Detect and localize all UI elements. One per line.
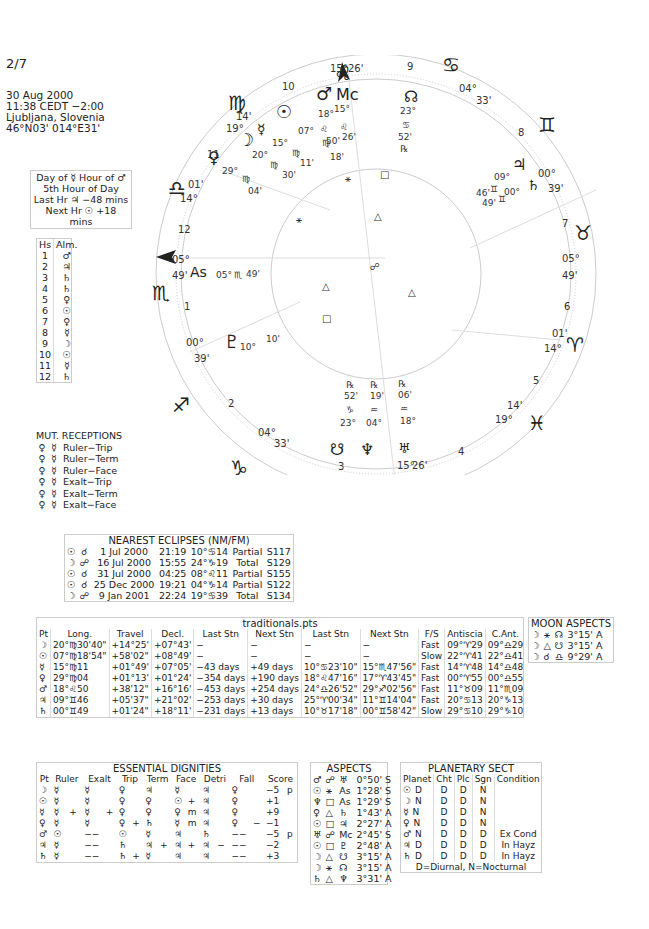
svg-text:♀: ♀ xyxy=(208,148,220,167)
dignity-row-cell xyxy=(67,840,82,851)
dignity-row-cell xyxy=(104,796,117,807)
dig-h-ruler: Ruler xyxy=(52,774,83,785)
svg-text:01': 01' xyxy=(552,328,567,339)
eclipse-row-cell: 16 Jul 2000 xyxy=(91,557,156,568)
planet-b: ☿ xyxy=(48,499,60,511)
traditionals-row-cell: ♂ xyxy=(37,684,50,695)
eclipse-row-cell: Partial xyxy=(230,579,264,590)
aspect-row: ♂☍♅0°50' S xyxy=(311,774,394,785)
traditionals-row-cell: +01°49' xyxy=(109,662,151,673)
almuten-planet: ♀ xyxy=(54,316,80,327)
dignity-row-cell xyxy=(215,829,229,840)
moon-aspect-row-cell: ☽ xyxy=(529,640,542,651)
aspect-row-cell: ♄ xyxy=(311,873,324,884)
sect-cell xyxy=(494,807,541,818)
svg-text:23°: 23° xyxy=(400,106,416,116)
svg-text:♏: ♏ xyxy=(152,281,170,305)
dignity-row-cell: −5 xyxy=(264,785,285,796)
traditionals-header: Travel xyxy=(109,629,151,640)
almuten-row: 5♀ xyxy=(37,294,80,305)
traditionals-row: ♄00°♊49+01'24"+18°11'−231 days+13 days10… xyxy=(37,706,525,717)
eclipse-row-cell: 08°♌11 xyxy=(188,568,230,579)
reception-row: ♀☿Ruler−Trip xyxy=(36,442,122,454)
dignity-row-cell xyxy=(251,807,264,818)
dignity-row-cell: ♀ xyxy=(117,807,131,818)
dignity-row-cell: ♄ xyxy=(117,840,131,851)
dignity-row-cell: ☿ xyxy=(52,796,68,807)
planet-sect: N xyxy=(413,807,420,817)
header-house: Hs xyxy=(37,239,54,250)
svg-text:♌: ♌ xyxy=(320,124,328,134)
aspect-row-cell: 2°45' S xyxy=(355,829,394,840)
dig-h-exalt: Exalt xyxy=(82,774,116,785)
moon-aspect-row-cell: ♎ xyxy=(553,651,566,662)
almuten-planet: ♄ xyxy=(54,283,80,294)
svg-text:46': 46' xyxy=(476,188,490,198)
traditionals-row-cell: +30 days xyxy=(248,695,302,706)
planet-glyph: ♀ xyxy=(403,818,410,828)
svg-text:☋: ☋ xyxy=(330,440,344,459)
aspect-row: ♄△♆3°31' A xyxy=(311,873,394,884)
aspect-row: ♅☍Mc2°45' S xyxy=(311,829,394,840)
svg-text:☉: ☉ xyxy=(276,101,292,122)
sect-cell: D xyxy=(434,829,455,840)
svg-text:♊: ♊ xyxy=(538,113,556,137)
aspect-row-cell: △ xyxy=(324,851,338,862)
sect-cell: N xyxy=(472,785,494,796)
svg-text:△: △ xyxy=(374,211,382,222)
almuten-planet: ☽ xyxy=(54,338,80,349)
dignity-row-cell: ♃ xyxy=(200,851,215,862)
reception-type: Exalt−Trip xyxy=(63,476,112,487)
aspect-row: ☉□♇2°48' A xyxy=(311,840,394,851)
planet-b: ☿ xyxy=(48,488,60,500)
dignity-row-cell: ♃ xyxy=(200,807,215,818)
aspect-row-cell: ♂ xyxy=(311,774,324,785)
aspects-title: ASPECTS xyxy=(311,763,387,774)
dignity-row-cell: −5 xyxy=(264,829,285,840)
traditionals-row-cell: 14°♈48 xyxy=(445,662,486,673)
dignity-row-cell xyxy=(186,829,200,840)
eclipse-row-cell: ☉ xyxy=(65,546,78,557)
almuten-planet: ☿ xyxy=(54,327,80,338)
svg-text:05°: 05° xyxy=(562,253,580,264)
eclipse-row-cell: 10°♋14 xyxy=(188,546,230,557)
svg-text:7: 7 xyxy=(562,218,568,229)
planet-glyph: ☿ xyxy=(403,807,409,817)
almuten-planet: ♂ xyxy=(54,250,80,261)
house-number: 10 xyxy=(37,349,54,360)
svg-text:20°: 20° xyxy=(252,150,268,160)
dignity-row-cell: ♄ xyxy=(117,851,131,862)
aspect-row-cell: ♆ xyxy=(337,873,354,884)
sect-cell: N xyxy=(472,796,494,807)
aspect-row-cell: 1°43' A xyxy=(355,807,394,818)
eclipse-row-cell: S155 xyxy=(265,568,294,579)
planetary-hour-box: Day of ☿ Hour of ♂ 5th Hour of Day Last … xyxy=(30,170,132,229)
dignity-row-cell: + xyxy=(130,818,143,829)
svg-text:04°: 04° xyxy=(258,427,276,438)
traditionals-row-cell: 22°♎41 xyxy=(485,651,525,662)
svg-text:33': 33' xyxy=(476,95,491,106)
svg-text:9: 9 xyxy=(407,61,413,72)
sect-row: ☉DDDN xyxy=(401,785,542,796)
traditionals-row-cell: − xyxy=(302,651,361,662)
dignity-row-cell: −− xyxy=(82,829,103,840)
moon-aspect-row-cell: ☽ xyxy=(529,651,542,662)
sect-cell: D xyxy=(454,785,472,796)
dignity-row-cell xyxy=(130,807,143,818)
traditionals-row-cell: − xyxy=(360,640,419,651)
chart-number: 2/7 xyxy=(6,56,27,71)
traditionals-header: Next Stn xyxy=(248,629,302,640)
sect-cell: D xyxy=(454,818,472,829)
traditionals-header: Pt xyxy=(37,629,50,640)
svg-text:00°: 00° xyxy=(504,187,520,197)
next-hour: Next Hr ☉ +18 mins xyxy=(33,205,129,227)
traditionals-row-cell: +190 days xyxy=(248,673,302,684)
svg-text:15°: 15° xyxy=(272,138,288,148)
traditionals-row-cell: 07°♍18'54" xyxy=(50,651,109,662)
last-hour: Last Hr ♃ −48 mins xyxy=(33,194,129,205)
traditionals-row-cell: Fast xyxy=(419,684,445,695)
traditionals-row-cell: Slow xyxy=(419,651,445,662)
moon-aspect-row: ☽△☋3°15' A xyxy=(529,640,604,651)
dignity-row-cell: +1 xyxy=(264,796,285,807)
svg-text:14': 14' xyxy=(507,400,522,411)
